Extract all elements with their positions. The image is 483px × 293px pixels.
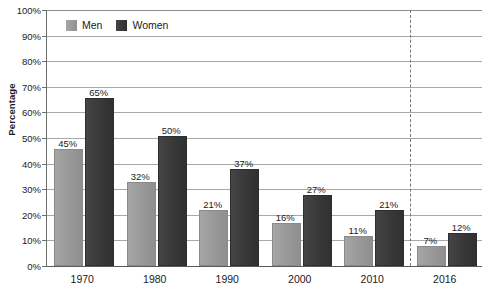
chart-legend: MenWomen <box>66 19 168 31</box>
bar-women-2010[interactable] <box>375 210 404 266</box>
y-tick-label-40: 40% <box>22 158 41 169</box>
y-tick-mark-40 <box>42 164 47 165</box>
x-tick-label-1980: 1980 <box>143 273 166 285</box>
bar-men-1980[interactable] <box>127 182 156 266</box>
legend-item-men[interactable]: Men <box>66 19 102 31</box>
bar-value-label-women-2000: 27% <box>307 184 326 195</box>
y-axis-tick-labels: 0%10%20%30%40%50%60%70%80%90%100% <box>0 0 44 293</box>
y-tick-mark-0 <box>42 266 47 267</box>
gridline-0 <box>47 266 482 267</box>
y-tick-mark-50 <box>42 138 47 139</box>
y-tick-label-0: 0% <box>27 261 41 272</box>
bar-women-1990[interactable] <box>230 169 259 266</box>
legend-label-men: Men <box>82 19 102 31</box>
y-tick-label-30: 30% <box>22 184 41 195</box>
bar-value-label-men-2010: 11% <box>349 225 367 236</box>
bar-value-label-women-1990: 37% <box>234 158 253 169</box>
legend-item-women[interactable]: Women <box>116 19 168 31</box>
bar-value-label-men-1980: 32% <box>131 171 150 182</box>
bar-women-1980[interactable] <box>158 136 187 266</box>
bar-value-label-women-1970: 65% <box>89 87 108 98</box>
gridline-100 <box>47 10 482 11</box>
x-tick-label-2016: 2016 <box>433 273 456 285</box>
bar-value-label-women-2016: 12% <box>452 222 471 233</box>
bar-value-label-men-1990: 21% <box>203 199 222 210</box>
y-tick-mark-60 <box>42 112 47 113</box>
legend-label-women: Women <box>132 19 168 31</box>
x-axis-tick-labels: 197019801990200020102016 <box>46 268 481 292</box>
y-tick-mark-10 <box>42 240 47 241</box>
bar-men-2000[interactable] <box>272 223 301 266</box>
forecast-separator-line <box>410 10 411 266</box>
bar-men-1970[interactable] <box>54 149 83 266</box>
bar-men-2016[interactable] <box>417 246 446 266</box>
bar-value-label-women-2010: 21% <box>379 199 398 210</box>
x-tick-label-1990: 1990 <box>216 273 239 285</box>
bar-men-2010[interactable] <box>344 236 373 266</box>
y-tick-mark-100 <box>42 10 47 11</box>
bar-value-label-women-1980: 50% <box>162 125 181 136</box>
bar-men-1990[interactable] <box>199 210 228 266</box>
grouped-bar-chart: Percentage 0%10%20%30%40%50%60%70%80%90%… <box>0 0 483 293</box>
legend-swatch-men-icon <box>66 20 77 31</box>
y-tick-label-90: 90% <box>22 30 41 41</box>
gridline-80 <box>47 61 482 62</box>
y-tick-label-10: 10% <box>22 235 41 246</box>
bar-value-label-men-2000: 16% <box>276 212 295 223</box>
bar-value-label-men-2016: 7% <box>423 235 437 246</box>
y-tick-mark-80 <box>42 61 47 62</box>
plot-area: 45%65%32%50%21%37%16%27%11%21%7%12% <box>46 10 482 266</box>
x-tick-label-1970: 1970 <box>71 273 94 285</box>
legend-swatch-women-icon <box>116 20 127 31</box>
y-tick-mark-30 <box>42 189 47 190</box>
bar-women-2000[interactable] <box>303 195 332 266</box>
bar-women-1970[interactable] <box>85 98 114 266</box>
y-tick-label-60: 60% <box>22 107 41 118</box>
y-tick-mark-90 <box>42 36 47 37</box>
x-tick-label-2010: 2010 <box>361 273 384 285</box>
y-tick-mark-20 <box>42 215 47 216</box>
y-tick-label-80: 80% <box>22 56 41 67</box>
gridline-70 <box>47 87 482 88</box>
bar-women-2016[interactable] <box>448 233 477 266</box>
y-tick-label-70: 70% <box>22 81 41 92</box>
y-tick-label-20: 20% <box>22 209 41 220</box>
bar-value-label-men-1970: 45% <box>58 138 77 149</box>
y-tick-label-100: 100% <box>17 5 41 16</box>
y-tick-label-50: 50% <box>22 133 41 144</box>
x-tick-label-2000: 2000 <box>288 273 311 285</box>
y-tick-mark-70 <box>42 87 47 88</box>
gridline-90 <box>47 36 482 37</box>
